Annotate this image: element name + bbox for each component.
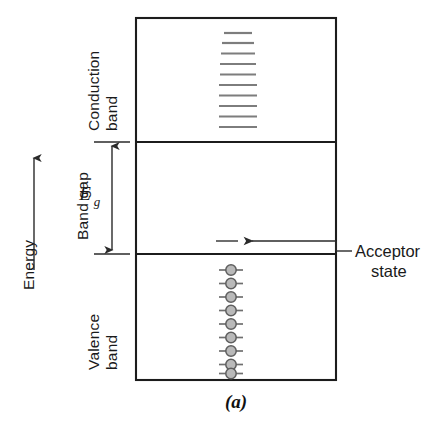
valence-band-label-line2: band: [103, 335, 120, 370]
panel-caption: (a): [225, 391, 247, 413]
electron-state: [219, 332, 243, 342]
electron-state: [219, 278, 243, 288]
electron-state: [219, 346, 243, 356]
acceptor-state-label-line2: state: [371, 262, 407, 280]
eg-symbol-subscript: g: [94, 194, 101, 209]
energy-axis-label: Energy: [20, 240, 37, 290]
electron-state: [219, 368, 243, 378]
band-diagram-figure: Acceptor state Energy Conduction band Ba…: [0, 0, 448, 426]
electron-state: [219, 265, 243, 275]
electron-state: [219, 292, 243, 302]
conduction-band-label-line1: Conduction: [85, 51, 102, 131]
acceptor-state-label-line1: Acceptor: [355, 242, 421, 260]
electron-state: [219, 319, 243, 329]
band-diagram-svg: Acceptor state Energy Conduction band Ba…: [0, 0, 448, 426]
acceptor-state-leader-stub: [336, 241, 352, 251]
valence-band-label-line1: Valence: [85, 314, 102, 370]
conduction-band-levels: [219, 33, 257, 127]
valence-band-electrons: [219, 265, 243, 379]
eg-symbol-letter: E: [78, 183, 91, 204]
conduction-band-label-line2: band: [103, 96, 120, 131]
electron-state: [219, 305, 243, 315]
